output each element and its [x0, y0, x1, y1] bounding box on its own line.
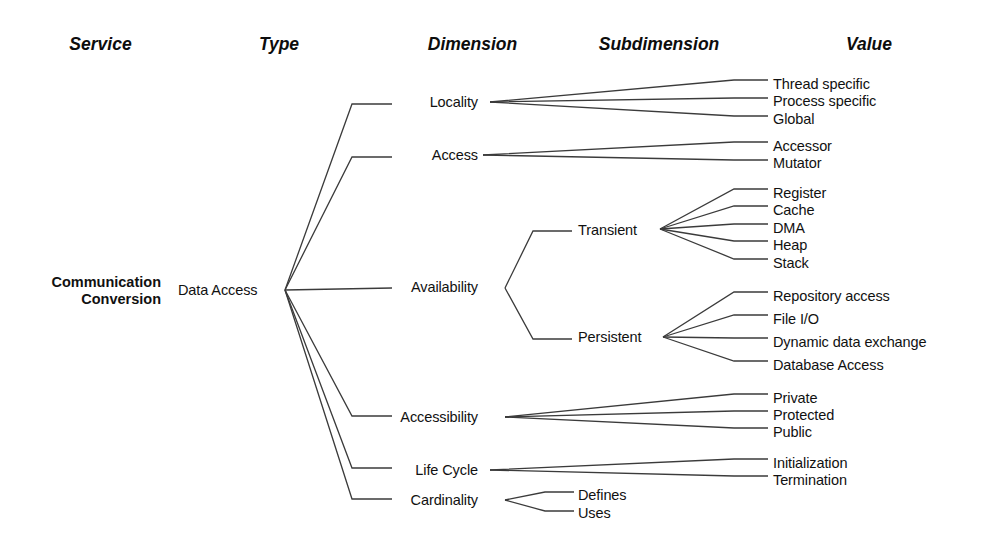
dimension-life-cycle: Life Cycle — [278, 463, 478, 478]
subdimension-uses: Uses — [578, 506, 611, 521]
connector-availability-to-persistent — [505, 288, 572, 339]
connector-persistent-value-2 — [663, 337, 768, 338]
dimension-accessibility: Accessibility — [278, 410, 478, 425]
connector-transient-value-2 — [660, 224, 768, 229]
value-initialization: Initialization — [773, 456, 847, 471]
service-label: CommunicationConversion — [33, 274, 161, 308]
connector-availability-to-transient — [505, 231, 572, 288]
connector-type-to-life-cycle — [285, 290, 392, 468]
connector-persistent-value-1 — [663, 315, 768, 337]
connector-accessibility-value-1 — [505, 411, 768, 417]
connector-type-to-accessibility — [285, 290, 392, 416]
value-termination: Termination — [773, 473, 847, 488]
value-dynamic-data-exchange: Dynamic data exchange — [773, 335, 926, 350]
value-thread-specific: Thread specific — [773, 77, 870, 92]
value-process-specific: Process specific — [773, 94, 876, 109]
value-public: Public — [773, 425, 812, 440]
connector-accessibility-value-2 — [505, 417, 768, 428]
connector-type-to-locality — [285, 104, 392, 290]
connector-cardinality-to-defines — [505, 492, 574, 500]
column-header-value: Value — [763, 36, 975, 54]
connector-cardinality-to-uses — [505, 500, 574, 511]
connector-lifecycle-value-1 — [490, 470, 768, 476]
column-header-subdimension: Subdimension — [555, 36, 763, 54]
value-database-access: Database Access — [773, 358, 884, 373]
value-protected: Protected — [773, 408, 834, 423]
value-repository-access: Repository access — [773, 289, 890, 304]
value-global: Global — [773, 112, 814, 127]
column-header-dimension: Dimension — [390, 36, 555, 54]
value-mutator: Mutator — [773, 156, 821, 171]
value-accessor: Accessor — [773, 139, 832, 154]
connector-access-value-0 — [483, 142, 768, 155]
connector-lifecycle-value-0 — [490, 459, 768, 470]
value-cache: Cache — [773, 203, 814, 218]
value-heap: Heap — [773, 238, 807, 253]
dimension-locality: Locality — [278, 95, 478, 110]
column-header-service: Service — [33, 36, 168, 54]
subdimension-persistent: Persistent — [578, 330, 641, 345]
value-file-i-o: File I/O — [773, 312, 819, 327]
connector-transient-value-4 — [660, 229, 768, 259]
dimension-cardinality: Cardinality — [278, 493, 478, 508]
value-dma: DMA — [773, 221, 805, 236]
value-stack: Stack — [773, 256, 809, 271]
connector-transient-value-0 — [660, 189, 768, 229]
value-private: Private — [773, 391, 817, 406]
subdimension-defines: Defines — [578, 488, 626, 503]
value-register: Register — [773, 186, 826, 201]
column-header-type: Type — [168, 36, 390, 54]
dimension-access: Access — [278, 148, 478, 163]
type-label: Data Access — [178, 283, 258, 298]
diagram-canvas: ServiceTypeDimensionSubdimensionValueCom… — [0, 0, 1000, 559]
connector-type-to-access — [285, 157, 392, 290]
connector-locality-value-2 — [490, 102, 768, 116]
connector-persistent-value-3 — [663, 337, 768, 361]
subdimension-transient: Transient — [578, 223, 637, 238]
connector-access-value-1 — [483, 155, 768, 160]
dimension-availability: Availability — [278, 280, 478, 295]
